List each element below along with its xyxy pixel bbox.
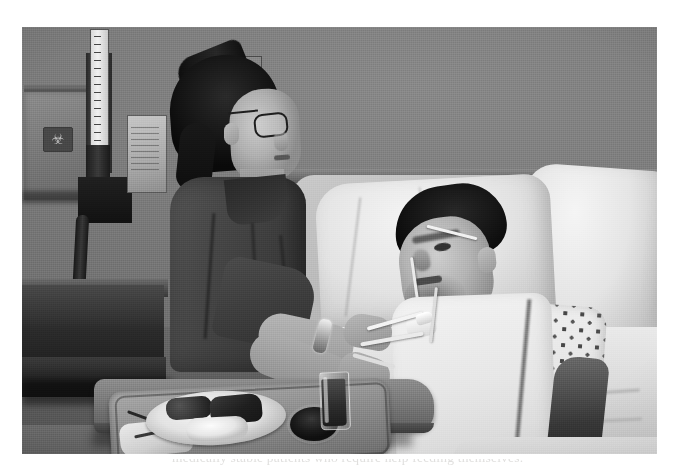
caption-text: medically stable patients who require he… (172, 459, 523, 466)
patient-lap-sheet (452, 437, 657, 454)
nurse-ear (224, 123, 239, 145)
biohazard-icon: ☣ (43, 127, 73, 152)
food-potato (185, 415, 248, 442)
caption-cropped: medically stable patients who require he… (22, 459, 656, 472)
wall-manometer-gauge (90, 29, 109, 151)
photograph: ☣ (22, 27, 657, 454)
nurse-nose (273, 131, 288, 152)
wall-chart-paper (131, 127, 159, 173)
scanned-page: ☣ (0, 0, 678, 472)
